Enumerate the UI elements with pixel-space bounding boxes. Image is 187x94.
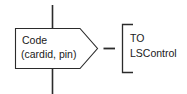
message-parameters-label: (cardid, pin) [21, 49, 76, 60]
destination-keyword-label: TO [130, 33, 144, 44]
destination-target-label: LSControl [130, 48, 177, 59]
diagram-canvas: Code (cardid, pin) TO LSControl [0, 0, 187, 94]
message-name-label: Code [22, 35, 47, 46]
